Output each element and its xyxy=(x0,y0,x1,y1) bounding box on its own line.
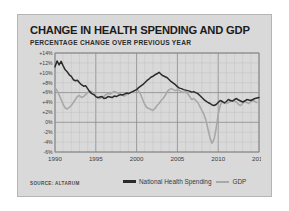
series-line-gdp xyxy=(55,88,257,143)
y-axis-tick-label: -2% xyxy=(43,129,53,135)
line-chart: -6%-4%-2%0%+2%+4%+6%+8%+10%+12%+14% 1990… xyxy=(30,50,261,168)
y-axis-tick-label: 0% xyxy=(45,119,53,125)
x-axis-tick-label: 2015 xyxy=(252,155,261,162)
chart-series-group xyxy=(55,61,259,143)
x-axis-tick-labels: 199019952000200520102015 xyxy=(48,155,261,162)
chart-plot-area: -6%-4%-2%0%+2%+4%+6%+8%+10%+12%+14% 1990… xyxy=(30,50,261,168)
chart-legend: National Health Spending GDP xyxy=(123,178,246,185)
legend-item-health-spending: National Health Spending xyxy=(123,178,211,185)
legend-label: GDP xyxy=(232,178,246,185)
y-axis-tick-label: -4% xyxy=(43,139,53,145)
y-axis-tick-label: +6% xyxy=(42,89,53,95)
chart-card: CHANGE IN HEALTH SPENDING AND GDP PERCEN… xyxy=(17,14,272,197)
legend-item-gdp: GDP xyxy=(216,178,246,185)
y-axis-tick-label: +8% xyxy=(42,80,53,86)
series-line-national-health-spending xyxy=(55,61,259,106)
y-axis-tick-label: +4% xyxy=(42,99,53,105)
x-axis-tick-label: 2010 xyxy=(211,155,225,162)
legend-swatch-icon xyxy=(216,181,229,183)
x-axis-tick-label: 2000 xyxy=(130,155,144,162)
page-title: CHANGE IN HEALTH SPENDING AND GDP xyxy=(30,24,250,36)
y-axis-tick-label: +12% xyxy=(39,60,53,66)
legend-label: National Health Spending xyxy=(139,178,211,185)
legend-swatch-icon xyxy=(123,180,136,182)
y-axis-tick-labels: -6%-4%-2%0%+2%+4%+6%+8%+10%+12%+14% xyxy=(39,50,53,155)
y-axis-tick-label: -6% xyxy=(43,149,53,155)
x-axis-tick-label: 2005 xyxy=(171,155,185,162)
y-axis-tick-label: +2% xyxy=(42,109,53,115)
x-axis-tick-label: 1995 xyxy=(89,155,103,162)
y-axis-tick-label: +10% xyxy=(39,70,53,76)
y-axis-tick-label: +14% xyxy=(39,50,53,56)
x-axis-tick-label: 1990 xyxy=(48,155,62,162)
chart-source: SOURCE: ALTARUM xyxy=(30,181,80,186)
chart-subtitle: PERCENTAGE CHANGE OVER PREVIOUS YEAR xyxy=(30,39,191,46)
